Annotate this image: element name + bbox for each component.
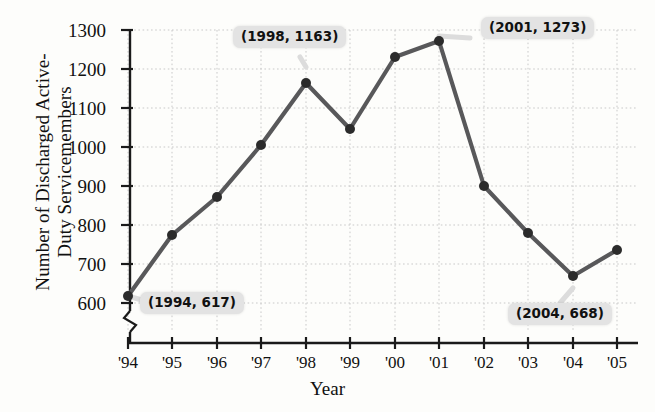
data-point	[256, 140, 266, 150]
annotation-1994[interactable]: (1994, 617)	[140, 292, 244, 314]
y-axis-break-icon	[124, 311, 136, 332]
annotation-2001[interactable]: (2001, 1273)	[481, 17, 594, 39]
data-point	[479, 181, 489, 191]
data-point	[390, 52, 400, 62]
data-point	[345, 124, 355, 134]
data-point	[434, 36, 444, 46]
data-point	[167, 230, 177, 240]
line-chart-figure: Number of Discharged Active- Duty Servic…	[0, 0, 655, 412]
data-point	[301, 78, 311, 88]
annotation-2004[interactable]: (2004, 668)	[508, 303, 612, 325]
vertical-gridlines	[128, 30, 617, 330]
data-point-markers	[123, 36, 622, 301]
data-point	[123, 291, 133, 301]
data-point	[523, 228, 533, 238]
data-point	[212, 192, 222, 202]
data-point	[568, 271, 578, 281]
annotation-1998[interactable]: (1998, 1163)	[233, 26, 346, 48]
data-point	[612, 245, 622, 255]
data-series-line	[128, 41, 617, 296]
plot-canvas	[0, 0, 655, 412]
